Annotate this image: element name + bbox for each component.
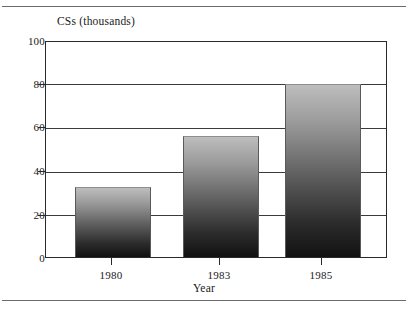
page-rule-top [2, 6, 406, 7]
y-axis-title: CSs (thousands) [57, 15, 135, 28]
x-tick-label-1983: 1983 [189, 269, 249, 281]
y-tick-mark-60 [38, 127, 45, 128]
bar-1983 [183, 136, 259, 257]
bar-chart-figure: CSs (thousands) 100 80 60 40 20 0 1980 1… [0, 0, 408, 310]
y-tick-mark-40 [38, 171, 45, 172]
x-axis-title: Year [0, 282, 408, 295]
y-tick-label-0: 0 [11, 253, 45, 264]
y-tick-mark-80 [38, 84, 45, 85]
x-tick-mark-1983 [219, 258, 220, 265]
y-tick-label-100: 100 [11, 36, 45, 47]
bars-layer [46, 42, 386, 257]
bar-1985 [285, 84, 361, 257]
bar-1980 [75, 187, 151, 257]
y-axis: 100 80 60 40 20 0 [0, 0, 45, 310]
plot-area [45, 41, 387, 258]
x-tick-mark-1980 [111, 258, 112, 265]
x-tick-mark-1985 [321, 258, 322, 265]
y-tick-mark-20 [38, 215, 45, 216]
page-rule-bottom [2, 300, 406, 301]
x-tick-label-1985: 1985 [291, 269, 351, 281]
x-tick-label-1980: 1980 [81, 269, 141, 281]
